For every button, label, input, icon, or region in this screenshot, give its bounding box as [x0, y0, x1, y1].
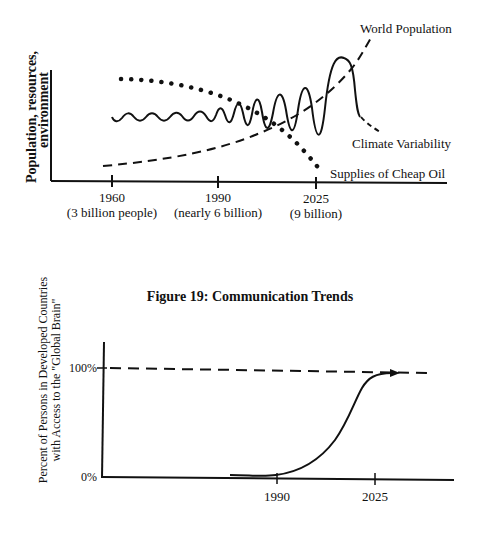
world-population-label: World Population [360, 21, 452, 36]
cheap-oil-label: Supplies of Cheap Oil [330, 166, 446, 181]
tick-note-1990: (nearly 6 billion) [174, 205, 262, 220]
x-label-2025: 2025 [362, 489, 388, 504]
bottom-y-axis [102, 342, 104, 478]
world-population-curve [103, 36, 372, 166]
top-y-label-line2: environment [36, 72, 51, 148]
tick-label-2025: 2025 [303, 191, 329, 206]
tick-note-2025: (9 billion) [290, 206, 342, 221]
y-label-0pct: 0% [81, 470, 97, 484]
bottom-chart: Figure 19: Communication Trends Percent … [36, 277, 454, 504]
tick-label-1990: 1990 [205, 190, 231, 205]
bottom-chart-title: Figure 19: Communication Trends [147, 289, 354, 304]
tick-note-1960: (3 billion people) [67, 205, 157, 220]
bottom-y-label-line1: Percent of Persons in Developed Countrie… [36, 277, 50, 484]
top-x-axis [51, 181, 447, 183]
hundred-percent-reference-line [110, 368, 428, 373]
bottom-x-axis [102, 477, 454, 480]
y-label-100pct: 100% [69, 361, 97, 375]
tick-label-1960: 1960 [99, 190, 125, 205]
arrow-head-icon [390, 369, 400, 377]
climate-variability-label: Climate Variability [352, 136, 452, 151]
x-label-1990: 1990 [264, 489, 290, 504]
climate-variability-curve [112, 57, 360, 134]
bottom-y-label-line2: with Access to the "Global Brain" [49, 299, 63, 462]
access-s-curve [230, 373, 392, 476]
top-chart: Population, resources, environment 1960 … [24, 21, 452, 221]
climate-variability-tail [361, 117, 380, 132]
figure-canvas: Population, resources, environment 1960 … [0, 0, 481, 534]
